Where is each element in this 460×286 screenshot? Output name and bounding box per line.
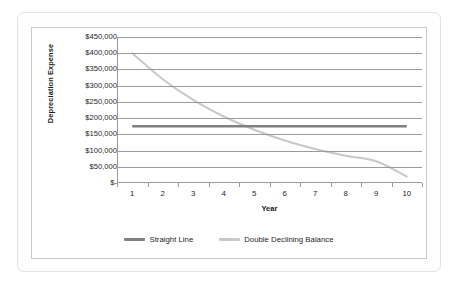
x-axis-title: Year: [117, 204, 422, 213]
x-axis-tick-label: 8: [344, 189, 348, 199]
series-line-double-declining-balance: [132, 53, 407, 176]
y-axis-tick-label: $400,000: [55, 49, 117, 57]
x-axis-tick-label: 6: [283, 189, 287, 199]
x-axis-tick: [422, 183, 423, 187]
legend-label: Double Declining Balance: [244, 235, 333, 244]
plot-area: [117, 37, 422, 183]
y-axis-tick-label: $200,000: [55, 114, 117, 122]
chart-legend: Straight LineDouble Declining Balance: [31, 235, 427, 244]
gridline: [117, 69, 422, 70]
x-axis-tick-label: 5: [252, 189, 256, 199]
chart: Depreciation Expense $450,000$400,000$35…: [31, 27, 427, 259]
y-axis-title: Depreciation Expense: [46, 24, 55, 144]
x-axis-tick: [270, 183, 271, 187]
y-axis-tick-label: $350,000: [55, 65, 117, 73]
gridline: [117, 118, 422, 119]
y-axis-tick-labels: $450,000$400,000$350,000$300,000$250,000…: [55, 37, 117, 183]
x-axis-tick: [361, 183, 362, 187]
gridline: [117, 151, 422, 152]
x-axis-tick-label: 9: [374, 189, 378, 199]
y-axis-tick-label: $300,000: [55, 82, 117, 90]
x-axis-tick-label: 10: [402, 189, 411, 199]
x-axis-tick-labels: 12345678910: [117, 189, 422, 201]
legend-label: Straight Line: [149, 235, 193, 244]
gridline: [117, 102, 422, 103]
x-axis-tick-label: 2: [161, 189, 165, 199]
x-axis-tick-label: 4: [222, 189, 226, 199]
gridline: [117, 37, 422, 38]
y-axis-tick-label: $100,000: [55, 147, 117, 155]
gridline: [117, 167, 422, 168]
gridline: [117, 86, 422, 87]
gridline: [117, 53, 422, 54]
x-axis-tick: [392, 183, 393, 187]
legend-item[interactable]: Straight Line: [124, 235, 193, 244]
x-axis-tick: [148, 183, 149, 187]
y-axis-tick-label: $-: [55, 179, 117, 187]
x-axis-tick-label: 1: [130, 189, 134, 199]
legend-line-marker-icon: [219, 238, 240, 240]
x-axis-tick-label: 3: [191, 189, 195, 199]
x-axis-tick: [239, 183, 240, 187]
y-axis-tick-label: $50,000: [55, 163, 117, 171]
y-axis-tick-label: $150,000: [55, 130, 117, 138]
legend-line-marker-icon: [124, 238, 145, 240]
x-axis-tick: [178, 183, 179, 187]
x-axis-tick: [209, 183, 210, 187]
x-axis-tick: [300, 183, 301, 187]
scanned-page: Depreciation Expense $450,000$400,000$35…: [0, 0, 460, 286]
y-axis-tick-label: $250,000: [55, 98, 117, 106]
gridline: [117, 134, 422, 135]
x-axis-tick: [331, 183, 332, 187]
legend-item[interactable]: Double Declining Balance: [219, 235, 333, 244]
y-axis-tick-label: $450,000: [55, 33, 117, 41]
x-axis-tick: [117, 183, 118, 187]
series-layer: [117, 37, 422, 183]
x-axis-tick-label: 7: [313, 189, 317, 199]
